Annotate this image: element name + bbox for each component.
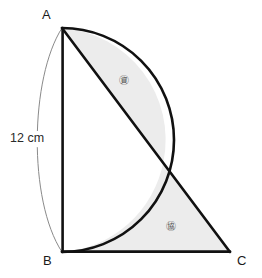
vertex-label-a: A bbox=[42, 8, 51, 21]
vertex-label-c: C bbox=[237, 254, 246, 267]
geometry-figure: A B C 12 cm ㊮ ㊯ bbox=[0, 0, 262, 278]
dimension-label-12cm: 12 cm bbox=[8, 131, 46, 147]
region-label-upper: ㊮ bbox=[119, 76, 129, 86]
region-label-lower: ㊯ bbox=[166, 222, 176, 232]
vertex-label-b: B bbox=[43, 254, 52, 267]
shaded-region-lower bbox=[62, 162, 230, 253]
